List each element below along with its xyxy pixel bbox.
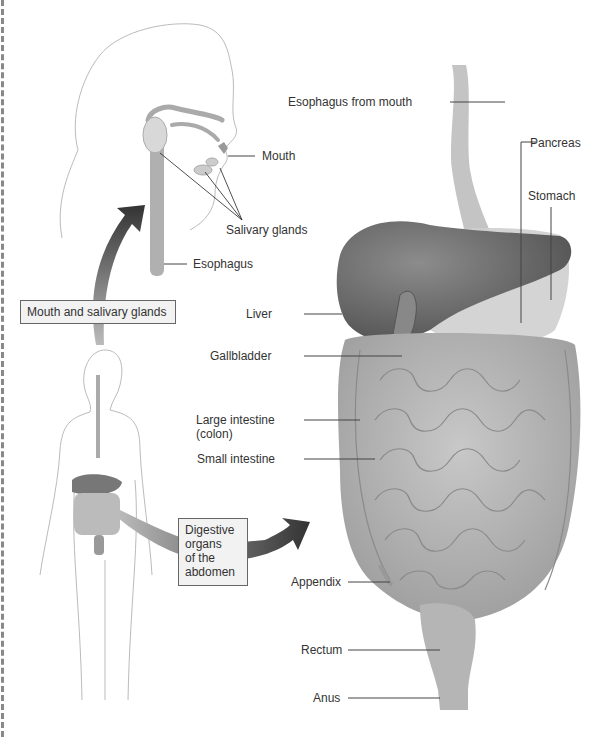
callout-line-1: Digestive bbox=[185, 523, 241, 537]
label-liver: Liver bbox=[246, 307, 272, 321]
label-stomach: Stomach bbox=[528, 189, 575, 203]
label-large-intestine: Large intestine (colon) bbox=[196, 413, 275, 441]
label-pancreas: Pancreas bbox=[530, 136, 581, 150]
arrow-to-head-icon bbox=[93, 205, 145, 345]
label-esophagus: Esophagus bbox=[193, 257, 253, 271]
label-salivary-glands: Salivary glands bbox=[226, 223, 307, 237]
label-small-intestine: Small intestine bbox=[197, 452, 275, 466]
callout-line-3: of the bbox=[185, 551, 241, 565]
head-profile-illustration bbox=[60, 24, 236, 276]
label-large-intestine-line1: Large intestine bbox=[196, 413, 275, 427]
label-appendix: Appendix bbox=[291, 575, 341, 589]
diagram-artwork bbox=[0, 0, 594, 737]
label-esophagus-from-mouth: Esophagus from mouth bbox=[288, 95, 412, 109]
callout-line-4: abdomen bbox=[185, 565, 241, 579]
label-large-intestine-line2: (colon) bbox=[196, 427, 275, 441]
label-mouth: Mouth bbox=[262, 149, 295, 163]
label-gallbladder: Gallbladder bbox=[210, 349, 271, 363]
callout-mouth-and-salivary-glands: Mouth and salivary glands bbox=[20, 300, 176, 324]
label-rectum: Rectum bbox=[301, 643, 342, 657]
callout-digestive-organs-of-abdomen: Digestive organs of the abdomen bbox=[178, 518, 248, 586]
callout-line-2: organs bbox=[185, 537, 241, 551]
label-anus: Anus bbox=[313, 691, 340, 705]
